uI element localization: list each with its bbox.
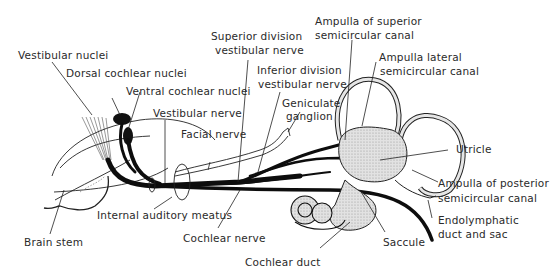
- label-ampulla-lateral-line2: semicircular canal: [380, 65, 479, 78]
- label-endolymphatic-line2: duct and sac: [438, 228, 508, 241]
- label-endolymphatic-line1: Endolymphatic: [438, 214, 519, 227]
- label-cochlear-duct: Cochlear duct: [245, 256, 320, 269]
- label-ampulla-posterior-line2: semicircular canal: [438, 192, 537, 205]
- vestibular-nuclei-fibers: [82, 117, 111, 160]
- label-superior-division-line2: vestibular nerve: [215, 44, 304, 57]
- label-inferior-division-line2: vestibular nerve: [258, 78, 347, 91]
- label-ampulla-superior-line2: semicircular canal: [315, 29, 414, 42]
- label-vestibular-nerve: Vestibular nerve: [153, 107, 242, 120]
- label-superior-division-line1: Superior division: [211, 30, 302, 43]
- label-internal-auditory-meatus: Internal auditory meatus: [97, 209, 232, 222]
- label-brain-stem: Brain stem: [24, 236, 83, 249]
- label-facial-nerve: Facial nerve: [181, 128, 246, 141]
- label-ampulla-lateral-line1: Ampulla lateral: [379, 51, 462, 64]
- label-geniculate-line2: ganglion: [286, 110, 333, 123]
- label-ampulla-superior-line1: Ampulla of superior: [315, 15, 422, 28]
- label-utricle: Utricle: [456, 143, 492, 156]
- label-inferior-division-line1: Inferior division: [257, 64, 342, 77]
- label-ventral-cochlear-nuclei: Ventral cochlear nuclei: [126, 85, 251, 98]
- label-dorsal-cochlear-nuclei: Dorsal cochlear nuclei: [66, 67, 187, 80]
- vestibular-labyrinth: [330, 79, 463, 230]
- label-cochlear-nerve: Cochlear nerve: [183, 232, 266, 245]
- label-saccule: Saccule: [383, 236, 425, 249]
- label-geniculate-line1: Geniculate: [282, 97, 341, 110]
- label-vestibular-nuclei: Vestibular nuclei: [18, 49, 108, 62]
- label-ampulla-posterior-line1: Ampulla of posterior: [438, 177, 549, 190]
